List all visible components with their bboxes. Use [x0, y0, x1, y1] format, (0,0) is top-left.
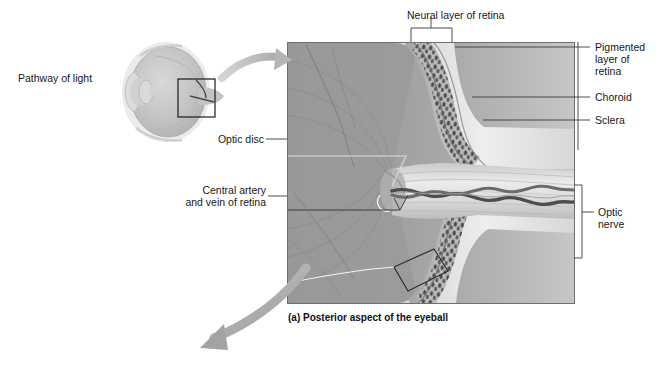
label-optic-nerve: Optic nerve	[598, 206, 664, 230]
zoom-arrow-bottom	[200, 268, 306, 350]
leader-pigmented-layer	[455, 42, 590, 150]
label-central-artery-and-vein: Central artery and vein of retina	[146, 184, 266, 208]
label-neural-layer-of-retina: Neural layer of retina	[407, 9, 504, 21]
label-pathway-of-light: Pathway of light	[18, 72, 92, 84]
figure-canvas: Neural layer of retina Pigmented layer o…	[0, 0, 670, 367]
label-optic-disc: Optic disc	[146, 133, 264, 145]
eye-overview-diagram	[122, 42, 224, 142]
label-sclera: Sclera	[595, 114, 625, 126]
figure-caption: (a) Posterior aspect of the eyeball	[288, 312, 448, 323]
zoom-arrow-top	[222, 48, 292, 78]
leader-optic-nerve	[574, 185, 594, 258]
label-pigmented-layer-of-retina: Pigmented layer of retina	[595, 41, 667, 77]
label-choroid: Choroid	[595, 91, 632, 103]
